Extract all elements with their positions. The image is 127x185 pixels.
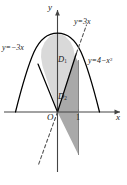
label-x-axis: x: [116, 113, 120, 122]
label-region-d2: D2: [58, 92, 67, 101]
label-region-d2-subscript: 2: [64, 95, 67, 101]
label-region-d1-subscript: 1: [64, 58, 67, 64]
label-line-neg3x: y=−3x: [2, 44, 24, 52]
label-region-d1: D1: [58, 55, 67, 64]
label-parabola: y=4−x2: [88, 57, 112, 65]
label-x-tick-1: 1: [76, 114, 80, 122]
label-origin: O: [47, 113, 54, 122]
label-parabola-text: y=4−x: [88, 56, 110, 65]
label-parabola-exponent: 2: [110, 57, 112, 62]
label-y-axis: y: [48, 3, 52, 12]
label-line-pos3x: y=3x: [74, 18, 91, 26]
math-figure: y=−3x y=3x y=4−x2 D1 D2 x y O 1: [0, 0, 127, 185]
line-pos3x-dashed-upper: [77, 25, 87, 53]
y-axis-arrowhead: [55, 10, 60, 16]
